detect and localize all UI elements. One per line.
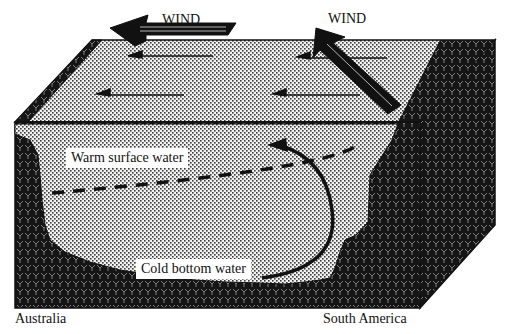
cold-bottom-water-label: Cold bottom water: [136, 259, 251, 279]
wind-label-left: WIND: [162, 13, 200, 27]
warm-surface-water-label: Warm surface water: [66, 148, 188, 168]
australia-label: Australia: [15, 312, 66, 326]
wind-label-right: WIND: [328, 12, 366, 26]
south-america-label: South America: [323, 312, 407, 326]
